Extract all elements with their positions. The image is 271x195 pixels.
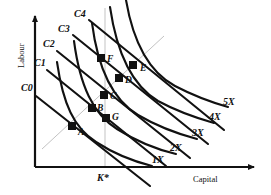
point-label-e: E (140, 64, 146, 74)
isoquant-curves (57, 0, 228, 166)
point-marker-g (102, 114, 110, 122)
point-label-b: B (97, 104, 103, 114)
x-axis-label: Capital (193, 175, 218, 184)
isoquant-label-3x: 3X (192, 128, 204, 138)
point-marker-f (97, 54, 105, 62)
point-label-g: G (112, 113, 119, 123)
point-marker-c (100, 91, 108, 99)
isoquant-label-5x: 5X (223, 97, 235, 107)
isocost-label-c4: C4 (74, 9, 86, 19)
isoquant-label-1x: 1X (152, 155, 164, 165)
isocost-lines (36, 20, 224, 186)
isocost-line-c4 (89, 20, 224, 130)
point-marker-e (129, 61, 137, 69)
point-label-f: F (107, 55, 113, 65)
point-marker-d (115, 74, 123, 82)
isoquant-label-2x: 2X (170, 143, 182, 153)
point-marker-b (88, 104, 96, 112)
point-label-c: C (110, 92, 116, 102)
point-label-a: A (78, 128, 84, 138)
isocost-label-c1: C1 (34, 58, 46, 68)
isocost-line-c3 (73, 35, 208, 144)
isoquant-label-4x: 4X (209, 112, 221, 122)
isocost-label-c2: C2 (43, 39, 55, 49)
point-marker-a (68, 122, 76, 130)
isocost-label-c0: C0 (21, 83, 33, 93)
k-star-label: K* (97, 173, 109, 183)
point-label-d: D (125, 76, 132, 86)
y-axis-label: Labour (17, 43, 26, 68)
isoquant-isocost-figure: C0 C1 C2 C3 C4 1X 2X 3X 4X 5X A B C D E … (0, 0, 271, 195)
isocost-label-c3: C3 (58, 24, 70, 34)
